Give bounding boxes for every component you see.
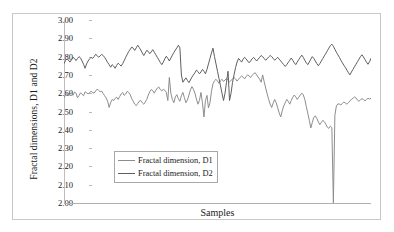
legend-label-d2: Fractal dimension, D2 (138, 169, 213, 178)
legend-item-d1: Fractal dimension, D1 (118, 154, 213, 167)
x-axis-title: Samples (64, 207, 371, 218)
line-series-d1 (64, 73, 371, 203)
x-axis-line (64, 203, 371, 204)
legend-swatch-d1 (118, 160, 135, 161)
chart-legend: Fractal dimension, D1 Fractal dimension,… (114, 151, 218, 183)
legend-label-d1: Fractal dimension, D1 (138, 156, 213, 165)
chart-frame: Fractal dimensions, D1 and D2 3.002.902.… (12, 13, 381, 220)
y-axis-title: Fractal dimensions, D1 and D2 (29, 34, 39, 204)
legend-item-d2: Fractal dimension, D2 (118, 167, 213, 180)
chart-figure: Fractal dimensions, D1 and D2 3.002.902.… (0, 0, 394, 232)
legend-swatch-d2 (118, 173, 135, 174)
line-series-d2 (64, 44, 371, 100)
